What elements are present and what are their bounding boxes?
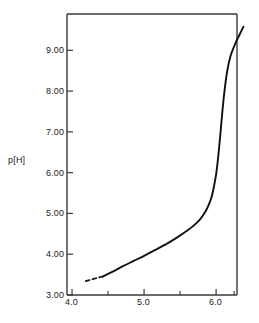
plot-frame (67, 14, 237, 295)
chart-figure: p[H] 3.004.005.006.007.008.009.00 4.05.0… (0, 0, 259, 323)
y-tick-label: 6.00 (46, 168, 64, 178)
plot-canvas (0, 0, 259, 323)
data-line-solid (102, 27, 243, 277)
y-tick-label: 5.00 (46, 208, 64, 218)
y-tick-label: 3.00 (46, 290, 64, 300)
y-tick-label: 8.00 (46, 86, 64, 96)
x-axis-ticks (72, 289, 234, 295)
x-tick-label: 6.0 (209, 297, 222, 307)
y-tick-label: 9.00 (46, 45, 64, 55)
y-tick-label: 4.00 (46, 249, 64, 259)
y-axis-title: p[H] (8, 155, 25, 165)
y-axis-ticks (67, 50, 73, 295)
x-tick-label: 5.0 (137, 297, 150, 307)
y-tick-label: 7.00 (46, 127, 64, 137)
data-line-dashed (86, 277, 103, 281)
x-tick-label: 4.0 (65, 297, 78, 307)
y-axis-title-bracket: [H] (13, 155, 25, 165)
